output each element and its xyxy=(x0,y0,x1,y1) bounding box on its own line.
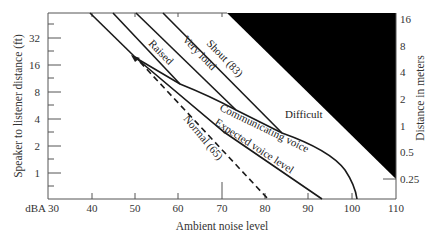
svg-text:90: 90 xyxy=(303,202,315,214)
svg-text:70: 70 xyxy=(217,202,229,214)
svg-text:32: 32 xyxy=(29,32,40,44)
svg-text:30: 30 xyxy=(48,202,60,214)
svg-text:60: 60 xyxy=(173,202,185,214)
svg-text:8: 8 xyxy=(400,40,406,52)
y-axis-left-ticks xyxy=(48,24,61,186)
svg-text:dBA: dBA xyxy=(25,202,46,214)
curve-entry xyxy=(90,13,136,58)
svg-text:0.25: 0.25 xyxy=(400,173,420,185)
y-axis-left-title: Speaker to listener distance (ft) xyxy=(12,34,25,178)
svg-text:2: 2 xyxy=(400,93,406,105)
svg-text:4: 4 xyxy=(400,66,406,78)
chart-canvas: 32 16 8 4 2 1 16 8 4 2 1 0.5 0.25 dBA 30… xyxy=(0,0,438,236)
svg-text:80: 80 xyxy=(260,202,272,214)
svg-text:1: 1 xyxy=(35,167,41,179)
svg-text:100: 100 xyxy=(344,202,361,214)
label-difficult: Difficult xyxy=(285,108,323,120)
svg-text:4: 4 xyxy=(35,113,41,125)
svg-text:0.5: 0.5 xyxy=(400,146,414,158)
svg-text:16: 16 xyxy=(400,13,412,25)
svg-text:50: 50 xyxy=(130,202,142,214)
x-axis-labels: dBA 30 40 50 60 70 80 90 100 110 xyxy=(25,202,404,214)
svg-text:40: 40 xyxy=(87,202,99,214)
y-axis-right-title: Distance in meters xyxy=(414,55,426,141)
x-axis-title: Ambient noise level xyxy=(176,220,269,232)
svg-text:2: 2 xyxy=(35,140,41,152)
y-axis-left-labels: 32 16 8 4 2 1 xyxy=(29,32,41,179)
svg-text:1: 1 xyxy=(400,120,406,132)
svg-text:110: 110 xyxy=(388,202,405,214)
svg-text:8: 8 xyxy=(35,86,41,98)
impossible-region xyxy=(227,13,396,179)
svg-text:16: 16 xyxy=(29,59,41,71)
